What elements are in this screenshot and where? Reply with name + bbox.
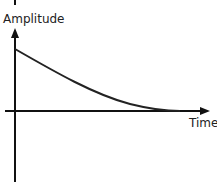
y-axis-label: Amplitude xyxy=(3,12,65,26)
y-axis-arrow-icon xyxy=(11,28,19,38)
x-axis-label: Time xyxy=(189,116,217,130)
x-axis-arrow-icon xyxy=(200,107,210,115)
decay-chart xyxy=(0,0,217,182)
decay-curve xyxy=(15,49,180,111)
